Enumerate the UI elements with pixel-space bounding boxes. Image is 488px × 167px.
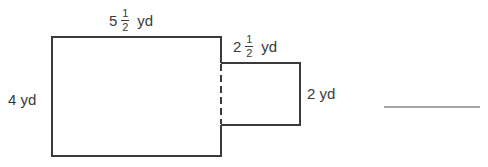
numerator: 1: [246, 34, 252, 45]
fraction: 1 2: [245, 34, 253, 59]
large-height-label: 4 yd: [8, 91, 36, 108]
unit: yd: [137, 12, 153, 29]
denominator: 2: [122, 22, 128, 33]
composite-figure: [0, 0, 488, 167]
denominator: 2: [246, 48, 252, 59]
large-width-label: 5 1 2 yd: [109, 8, 153, 33]
small-width-label: 2 1 2 yd: [233, 34, 277, 59]
large-rectangle-outline: [52, 37, 221, 156]
whole-number: 2: [233, 38, 241, 55]
small-height-label: 2 yd: [307, 85, 335, 102]
whole-number: 5: [109, 12, 117, 29]
unit: yd: [261, 38, 277, 55]
fraction: 1 2: [121, 8, 129, 33]
numerator: 1: [122, 8, 128, 19]
small-rectangle-outline: [221, 63, 300, 125]
